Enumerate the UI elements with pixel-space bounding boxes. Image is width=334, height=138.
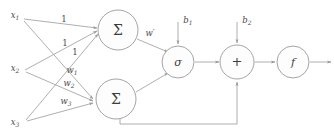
edge-x3-to-sum-bottom: [27, 103, 93, 121]
edge-sum-bottom-feedback-to-adder: [120, 82, 237, 124]
input-label-x2: x2: [11, 63, 20, 74]
edge-weight-label-top-1: 1: [61, 14, 66, 24]
computational-graph-diagram: Σ Σ σ + f x1 x2 x3 1 1 1 w1 w2 w3: [0, 0, 334, 138]
edge-weight-label-top-3: 1: [72, 47, 77, 57]
edge-x2-to-sum-top: [25, 31, 97, 70]
summation-node-top-glyph: Σ: [113, 22, 123, 38]
bias-label-b2: b2: [242, 15, 251, 26]
diagram-canvas: Σ Σ σ + f x1 x2 x3 1 1 1 w1 w2 w3: [0, 0, 334, 138]
input-label-x3: x3: [11, 117, 20, 128]
sigmoid-node-glyph: σ: [174, 56, 182, 69]
adder-node-glyph: +: [232, 54, 243, 69]
edge-sum-bottom-to-sigmoid: [136, 73, 168, 92]
edge-x1-to-sum-bottom: [24, 21, 93, 99]
edge-weight-label-w1: w1: [66, 65, 77, 76]
bias-label-b1: b1: [183, 15, 192, 26]
edge-weight-label-top-2: 1: [62, 38, 67, 48]
input-label-x1: x1: [11, 10, 20, 21]
edge-sum-top-to-sigmoid: [137, 39, 168, 52]
edge-weight-label-w3: w3: [60, 96, 71, 107]
summation-node-bottom-glyph: Σ: [111, 91, 121, 107]
edge-weight-label-w2: w2: [63, 78, 74, 89]
edge-weight-label-w-prime: w′: [145, 28, 154, 38]
